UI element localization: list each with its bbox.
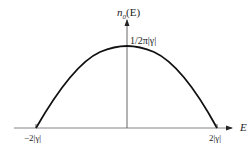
left-tick-label: −2|γ| <box>24 133 41 143</box>
y-axis-label: n0(E) <box>117 6 140 21</box>
dos-diagram: n0(E) 1/2π|γ| E −2|γ| 2|γ| <box>0 0 250 151</box>
x-axis-label: E <box>239 121 247 133</box>
right-tick-label: 2|γ| <box>209 133 221 143</box>
dos-curve <box>36 46 217 128</box>
peak-value-label: 1/2π|γ| <box>130 35 156 46</box>
